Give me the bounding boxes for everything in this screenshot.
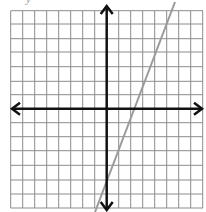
axes xyxy=(12,6,202,210)
coordinate-plane-figure: y xyxy=(0,0,206,212)
graph-canvas xyxy=(0,0,206,212)
cropped-label: y xyxy=(26,0,31,5)
